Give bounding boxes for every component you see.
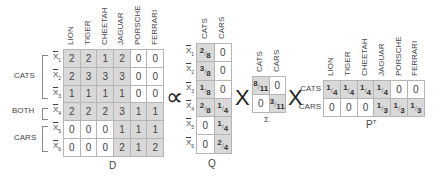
column-header: CHEETAH <box>101 7 109 45</box>
matrix-cell: 0 <box>269 77 286 95</box>
matrix-cell: 0 <box>130 85 147 103</box>
matrix-cell: 0 <box>80 138 97 156</box>
denominator: 4 <box>367 88 371 97</box>
row-label-sub: 2 <box>191 69 194 75</box>
row-label-sub: 6 <box>191 142 194 148</box>
column-header: FERRARI <box>151 10 159 45</box>
numerator: 3 <box>270 97 274 106</box>
column-header: TIGER <box>344 52 352 76</box>
matrix-cell: 1/4 <box>340 81 357 99</box>
matrix-cell: 2 <box>147 138 164 156</box>
matrix-row: 000111 <box>64 121 164 139</box>
row-label-sub: 4 <box>58 110 61 116</box>
column-header: JAGUAR <box>117 13 125 45</box>
matrix-cell: 0 <box>97 138 114 156</box>
group-label-cars: CARS <box>14 133 36 142</box>
matrix-cell: 1/3 <box>374 98 391 116</box>
numerator: 1 <box>360 83 364 92</box>
matrix-cell: 2 <box>114 138 131 156</box>
numerator: 1 <box>377 83 381 92</box>
matrix-cell: 0 <box>147 50 164 68</box>
matrix-cell: 1 <box>147 103 164 121</box>
numerator: 1 <box>343 83 347 92</box>
matrix-cell: 3 <box>97 67 114 85</box>
denominator: 4 <box>224 143 228 152</box>
group-label-both: BOTH <box>12 106 34 115</box>
matrix-cell: 0 <box>197 135 215 153</box>
matrix-row: 03/11 <box>253 95 286 113</box>
matrix-cell: 2 <box>97 103 114 121</box>
fraction-value: 1/3 <box>377 101 388 115</box>
matrix-cell: 2/8 <box>197 98 215 116</box>
matrix-cell: 0 <box>97 121 114 139</box>
fraction-value: 2/8 <box>200 101 211 115</box>
numerator: 2 <box>217 138 221 147</box>
row-label-sub: 4 <box>191 106 194 112</box>
group-bracket <box>42 55 48 99</box>
fraction-value: 2/4 <box>217 138 228 152</box>
matrix-pt: 1/41/41/41/4000001/31/31/3 <box>323 80 425 117</box>
group-bracket <box>42 108 48 120</box>
row-label-sub: 3 <box>58 92 61 98</box>
proportional-symbol: ∝ <box>166 86 183 108</box>
matrix-cell: 2 <box>114 50 131 68</box>
matrix-cell: 3/11 <box>269 95 286 113</box>
matrix-row: 01/4 <box>197 117 232 135</box>
matrix-row: 111100 <box>64 85 164 103</box>
fraction-value: 3/8 <box>200 64 211 78</box>
matrix-cell: 8/11 <box>253 77 270 95</box>
matrix-pt-label-sup: T <box>373 119 377 125</box>
denominator: 8 <box>206 69 210 78</box>
matrix-cell: 0 <box>130 67 147 85</box>
matrix-cell: 2 <box>80 50 97 68</box>
matrix-row: 233300 <box>64 67 164 85</box>
matrix-cell: 1 <box>97 50 114 68</box>
matrix-cell: 3 <box>80 67 97 85</box>
matrix-row: 1/80 <box>197 80 232 98</box>
matrix-cell: 2 <box>64 50 81 68</box>
fraction-value: 1/3 <box>410 101 421 115</box>
denominator: 4 <box>224 124 228 133</box>
matrix-cell: 0 <box>324 98 341 116</box>
matrix-cell: 1/4 <box>214 117 232 135</box>
matrix-q: 2/803/801/802/81/401/402/4 <box>196 43 232 154</box>
numerator: 1 <box>377 101 381 110</box>
row-label-sub: 3 <box>191 87 194 93</box>
matrix-cell: 0 <box>214 62 232 80</box>
column-header: CARS <box>273 50 281 72</box>
matrix-q-label: Q <box>208 158 216 169</box>
matrix-row: 000212 <box>64 138 164 156</box>
denominator: 4 <box>224 106 228 115</box>
matrix-cell: 1 <box>147 121 164 139</box>
column-header: PORSCHE <box>395 36 403 76</box>
row-label-sub: 6 <box>58 145 61 151</box>
matrix-cell: 0 <box>253 95 270 113</box>
matrix-cell: 0 <box>64 121 81 139</box>
row-label-sub: 1 <box>191 51 194 57</box>
matrix-row: 1/41/41/41/400 <box>324 81 425 99</box>
denominator: 3 <box>417 106 421 115</box>
column-header: CATS <box>256 51 264 72</box>
matrix-cell: 1 <box>130 121 147 139</box>
numerator: 1 <box>326 83 330 92</box>
fraction-value: 1/4 <box>343 83 354 97</box>
numerator: 1 <box>200 83 204 92</box>
column-header: LION <box>327 57 335 76</box>
row-label: X2 <box>166 64 194 75</box>
row-label-sub: 5 <box>191 124 194 130</box>
column-header: FERRARI <box>411 41 419 76</box>
matrix-row: 3/80 <box>197 62 232 80</box>
matrix-cell: 2/8 <box>197 44 215 62</box>
matrix-cell: 1/4 <box>357 81 374 99</box>
row-label: X1 <box>166 46 194 57</box>
matrix-cell: 1 <box>130 138 147 156</box>
matrix-cell: 0 <box>64 138 81 156</box>
matrix-row: 0001/31/31/3 <box>324 98 425 116</box>
matrix-cell: 2 <box>80 103 97 121</box>
matrix-cell: 0 <box>407 81 424 99</box>
matrix-cell: 0 <box>197 117 215 135</box>
matrix-cell: 0 <box>130 50 147 68</box>
matrix-cell: 1 <box>64 85 81 103</box>
column-header: LION <box>67 26 75 45</box>
matrix-row: 221200 <box>64 50 164 68</box>
